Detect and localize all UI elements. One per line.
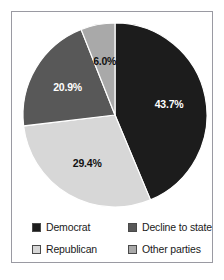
legend-label-other-parties: Other parties xyxy=(142,244,201,255)
legend-item-republican[interactable]: Republican xyxy=(32,238,128,260)
chart-legend: Democrat Decline to state Republican Oth… xyxy=(12,216,212,262)
legend-item-decline-to-state[interactable]: Decline to state xyxy=(128,216,224,238)
legend-swatch-other-parties xyxy=(128,245,137,254)
legend-swatch-republican xyxy=(32,245,41,254)
legend-label-republican: Republican xyxy=(46,244,97,255)
legend-swatch-decline-to-state xyxy=(128,223,137,232)
legend-label-decline-to-state: Decline to state xyxy=(142,222,212,233)
pie-chart-svg: 43.7% 29.4% 20.9% 6.0% xyxy=(12,12,212,215)
slice-label-democrat: 43.7% xyxy=(155,98,185,110)
legend-label-democrat: Democrat xyxy=(46,222,90,233)
legend-item-democrat[interactable]: Democrat xyxy=(32,216,128,238)
chart-frame: 43.7% 29.4% 20.9% 6.0% Democrat Decline … xyxy=(11,11,213,263)
slice-label-decline-to-state: 20.9% xyxy=(53,81,83,93)
legend-swatch-democrat xyxy=(32,223,41,232)
pie-slices xyxy=(23,23,207,207)
slice-label-other-parties: 6.0% xyxy=(93,55,117,67)
legend-item-other-parties[interactable]: Other parties xyxy=(128,238,224,260)
pie-chart-plot-area: 43.7% 29.4% 20.9% 6.0% xyxy=(12,12,212,215)
slice-label-republican: 29.4% xyxy=(73,157,103,169)
